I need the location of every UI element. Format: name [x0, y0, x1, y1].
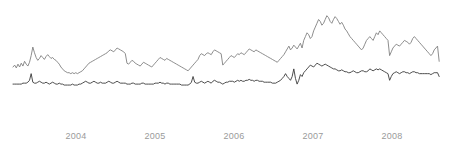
x-axis-tick-2005: 2005 [135, 131, 175, 141]
chart-container: 2004 2005 2006 2007 2008 [0, 0, 453, 155]
x-axis-tick-2008: 2008 [372, 131, 412, 141]
x-axis-tick-2004: 2004 [56, 131, 96, 141]
x-axis-tick-2006: 2006 [214, 131, 254, 141]
line-series-upper [13, 16, 439, 74]
x-axis-tick-2007: 2007 [293, 131, 333, 141]
line-series-lower [13, 63, 439, 85]
